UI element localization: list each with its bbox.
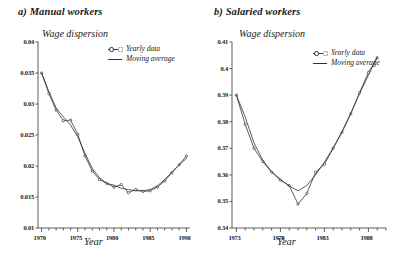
x-tick-label: 1980 [106,234,118,241]
x-tick-label: 1985 [142,234,154,241]
y-tick-label: 0.38 [217,118,228,125]
y-tick-label: 0.41 [217,38,228,45]
x-tick-label: 1983 [316,234,328,241]
legend-item-moving-average: Moving average [108,54,175,64]
y-tick-label: 0.02 [23,162,34,169]
y-tick-label: 0.35 [217,197,228,204]
figure-root: a) Manual workers Wage dispersion Yearly… [0,0,394,262]
legend-line-icon [313,59,327,67]
y-tick-label: 0.4 [220,65,228,72]
y-tick-label: 0.015 [20,193,34,200]
y-tick-label: 0.04 [23,38,34,45]
legend-manual: Yearly data Moving average [108,44,175,64]
y-tick-label: 0.37 [217,144,228,151]
y-tick-label: 0.34 [217,224,228,231]
legend-line-marker-icon [108,45,122,53]
x-tick-label: 1975 [70,234,82,241]
y-tick-label: 0.03 [23,100,34,107]
legend-label: Moving average [126,54,175,64]
x-tick-label: 1978 [272,234,284,241]
x-axis-title-manual: Year [84,236,103,247]
legend-label: Yearly data [331,48,365,58]
legend-line-icon [108,55,122,63]
y-tick-label: 0.01 [23,224,34,231]
x-tick-label: 1970 [34,234,46,241]
y-tick-label: 0.36 [217,171,228,178]
y-tick-label: 0.025 [20,131,34,138]
y-tick-label: 0.39 [217,91,228,98]
legend-line-marker-icon [313,49,327,57]
legend-label: Moving average [331,58,380,68]
x-tick-label: 1973 [228,234,240,241]
legend-item-yearly-data: Yearly data [313,48,380,58]
chart-panel-salaried: b) Salaried workers Wage dispersion Year… [197,0,394,262]
chart-panel-manual: a) Manual workers Wage dispersion Yearly… [0,0,197,262]
legend-label: Yearly data [126,44,160,54]
legend-item-moving-average: Moving average [313,58,380,68]
legend-salaried: Yearly data Moving average [313,48,380,68]
y-tick-label: 0.035 [20,69,34,76]
legend-item-yearly-data: Yearly data [108,44,175,54]
x-tick-label: 1988 [360,234,372,241]
x-tick-label: 1990 [178,234,190,241]
